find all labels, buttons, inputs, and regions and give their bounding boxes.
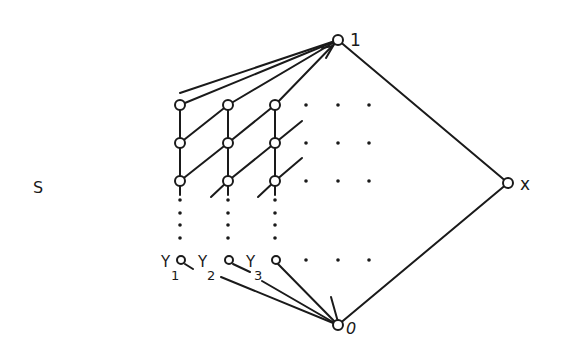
edge-top-x [338, 40, 508, 183]
node-bottom [333, 320, 343, 330]
node [270, 176, 280, 186]
node-x [503, 178, 513, 188]
diag-edge [180, 143, 228, 181]
edge-bottom-x [338, 183, 508, 325]
label-bottom: 0 [346, 319, 356, 338]
node-top [333, 35, 343, 45]
diag-edge [228, 143, 275, 181]
edge-r1c1-top [180, 40, 338, 105]
node [223, 100, 233, 110]
node-y2 [225, 256, 233, 264]
node [175, 176, 185, 186]
label-y3-sub: 3 [254, 268, 262, 283]
label-set-s: S [33, 178, 43, 197]
node [223, 138, 233, 148]
lattice-diagram: 1 0 x S Y 1 Y 2 Y 3 [0, 0, 570, 356]
edge-r1c2-top [228, 40, 338, 105]
node-y3 [272, 256, 280, 264]
label-y1-sub: 1 [171, 268, 179, 283]
node-y1 [177, 256, 185, 264]
label-x: x [520, 174, 530, 194]
edge-extra-top [180, 40, 338, 93]
edge-y1 [185, 264, 193, 269]
label-top: 1 [350, 30, 361, 50]
edge-y1-bottom [221, 277, 338, 325]
diag-edge [180, 105, 228, 143]
node [270, 138, 280, 148]
diag-edge [228, 105, 275, 143]
label-y1: Y [160, 253, 171, 271]
label-y2-sub: 2 [207, 268, 215, 283]
node [175, 138, 185, 148]
node [270, 100, 280, 110]
node [175, 100, 185, 110]
node [223, 176, 233, 186]
